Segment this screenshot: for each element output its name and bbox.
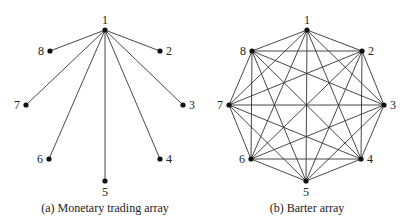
edge-1-4 [307,30,361,159]
node-5 [303,178,308,183]
node-2 [359,48,364,53]
barter-array: 12345678 (b) Barter array [217,13,396,215]
node-label-2: 2 [368,44,374,58]
node-label-5: 5 [102,185,108,199]
edge-1-6 [49,30,105,159]
node-4 [358,156,363,161]
nodes: 12345678 [14,13,195,199]
node-7 [226,102,231,107]
edge-3-8 [252,51,384,105]
node-label-1: 1 [304,13,310,27]
edge-5-8 [252,51,306,181]
node-label-5: 5 [303,185,309,199]
node-label-4: 4 [166,152,172,166]
node-label-3: 3 [189,98,195,112]
node-4 [157,156,162,161]
monetary-trading-array: 12345678 (a) Monetary trading array [14,13,195,215]
node-8 [249,48,254,53]
edge-4-7 [229,105,361,159]
diagram-canvas: 12345678 (a) Monetary trading array 1234… [0,0,409,224]
edge-1-7 [26,30,105,105]
edge-1-2 [105,30,160,51]
edge-1-2 [307,30,362,51]
caption-barter: (b) Barter array [270,201,345,215]
node-label-2: 2 [166,44,172,58]
node-label-8: 8 [38,44,44,58]
caption-monetary: (a) Monetary trading array [41,201,169,215]
node-5 [102,178,107,183]
node-8 [47,48,52,53]
node-label-6: 6 [239,152,245,166]
node-label-6: 6 [37,152,43,166]
node-1 [304,27,309,32]
node-label-8: 8 [240,44,246,58]
edge-1-3 [105,30,183,105]
node-3 [180,102,185,107]
node-2 [157,48,162,53]
node-label-7: 7 [217,98,223,112]
node-3 [381,102,386,107]
node-7 [23,102,28,107]
node-label-3: 3 [390,98,396,112]
edge-1-4 [105,30,160,159]
node-label-1: 1 [102,13,108,27]
node-label-4: 4 [367,152,373,166]
node-6 [248,156,253,161]
edge-1-8 [50,30,105,51]
edge-6-8 [251,51,252,159]
edge-1-8 [252,30,307,51]
node-label-7: 7 [14,98,20,112]
node-6 [46,156,51,161]
node-1 [102,27,107,32]
